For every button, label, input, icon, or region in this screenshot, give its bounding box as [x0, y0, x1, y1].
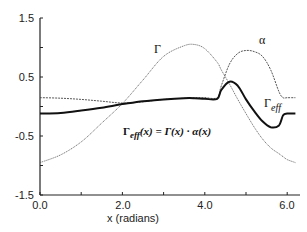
x-tick-label: 4.0	[197, 199, 212, 211]
x-axis-title: x (radians)	[107, 212, 159, 224]
equation-annotation: Γeff(x) = Γ(x) · α(x)	[123, 125, 211, 140]
line-chart: 1.5 0.5 -0.5 -1.5 0.0 2.0 4.0 6.0 x (rad…	[0, 0, 307, 232]
alpha-label: α	[259, 33, 266, 47]
series-alpha	[40, 50, 295, 103]
y-tick-label: 0.5	[19, 71, 34, 83]
series-layer	[40, 44, 295, 162]
gamma-label: Γ	[154, 42, 161, 56]
x-tick-label: 6.0	[279, 199, 294, 211]
series-gamma-eff	[40, 82, 295, 128]
series-gamma	[40, 44, 295, 162]
y-tick-label: -1.5	[15, 189, 34, 201]
y-tick-label: 1.5	[19, 12, 34, 24]
x-tick-label: 2.0	[115, 199, 130, 211]
y-tick-label: -0.5	[15, 130, 34, 142]
x-tick-labels: 0.0 2.0 4.0 6.0	[32, 199, 294, 211]
y-tick-labels: 1.5 0.5 -0.5 -1.5	[15, 12, 34, 201]
gamma-eff-label: Γeff	[264, 96, 282, 113]
x-tick-label: 0.0	[32, 199, 47, 211]
